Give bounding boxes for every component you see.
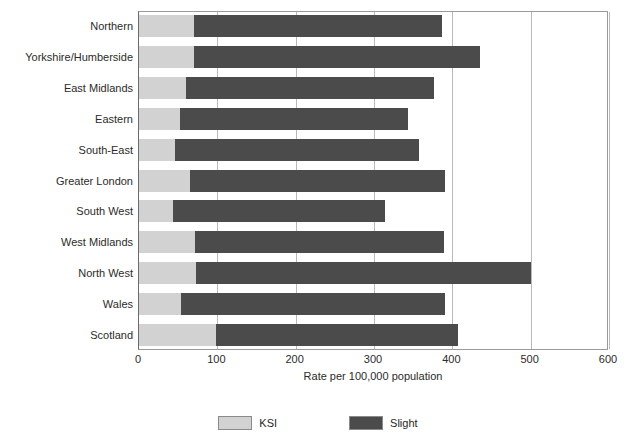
- category-label: Scotland: [0, 329, 133, 341]
- bar-segment-slight: [190, 170, 445, 192]
- legend-label-slight: Slight: [390, 417, 418, 429]
- legend-swatch-ksi-icon: [218, 416, 252, 430]
- gridline-600: [609, 12, 610, 349]
- category-axis-labels: NorthernYorkshire/HumbersideEast Midland…: [0, 11, 133, 350]
- bar-row: [139, 139, 609, 161]
- x-tick-label: 0: [118, 352, 158, 366]
- bar-row: [139, 324, 609, 346]
- x-tick-label: 500: [510, 352, 550, 366]
- bar-segment-slight: [195, 231, 444, 253]
- legend-label-ksi: KSI: [259, 417, 277, 429]
- bar-row: [139, 293, 609, 315]
- category-label: Yorkshire/Humberside: [0, 51, 133, 63]
- bar-segment-slight: [186, 77, 434, 99]
- bar-row: [139, 231, 609, 253]
- bar-segment-slight: [173, 200, 385, 222]
- bar-segment-ksi: [139, 231, 195, 253]
- bar-segment-ksi: [139, 324, 216, 346]
- bars-layer: [139, 11, 608, 350]
- x-tick-label: 300: [353, 352, 393, 366]
- bar-row: [139, 77, 609, 99]
- legend-item-ksi: KSI: [218, 416, 277, 430]
- bar-segment-slight: [194, 15, 442, 37]
- category-label: West Midlands: [0, 236, 133, 248]
- bar-segment-ksi: [139, 293, 181, 315]
- bar-row: [139, 46, 609, 68]
- category-label: East Midlands: [0, 82, 133, 94]
- bar-segment-slight: [194, 46, 480, 68]
- bar-segment-slight: [175, 139, 419, 161]
- bar-segment-ksi: [139, 46, 194, 68]
- legend-swatch-slight-icon: [349, 416, 383, 430]
- x-tick-label: 100: [196, 352, 236, 366]
- category-label: South West: [0, 205, 133, 217]
- bar-segment-slight: [180, 108, 409, 130]
- bar-segment-ksi: [139, 262, 196, 284]
- bar-segment-ksi: [139, 170, 190, 192]
- bar-row: [139, 262, 609, 284]
- bar-row: [139, 108, 609, 130]
- stacked-bar-chart: NorthernYorkshire/HumbersideEast Midland…: [0, 0, 636, 443]
- category-label: Northern: [0, 20, 133, 32]
- category-label: Eastern: [0, 113, 133, 125]
- x-axis-tick-labels: 0100200300400500600: [0, 352, 636, 368]
- category-label: Wales: [0, 298, 133, 310]
- x-tick-label: 400: [431, 352, 471, 366]
- bar-segment-ksi: [139, 77, 186, 99]
- x-axis-title: Rate per 100,000 population: [138, 370, 608, 382]
- category-label: North West: [0, 267, 133, 279]
- bar-row: [139, 200, 609, 222]
- category-label: Greater London: [0, 175, 133, 187]
- bar-row: [139, 170, 609, 192]
- chart-legend: KSI Slight: [0, 412, 636, 434]
- chart-title: [0, 0, 636, 3]
- bar-segment-slight: [196, 262, 530, 284]
- bar-segment-ksi: [139, 139, 175, 161]
- category-label: South-East: [0, 144, 133, 156]
- bar-segment-ksi: [139, 108, 180, 130]
- x-tick-label: 600: [588, 352, 628, 366]
- legend-item-slight: Slight: [349, 416, 418, 430]
- x-tick-label: 200: [275, 352, 315, 366]
- bar-row: [139, 15, 609, 37]
- bar-segment-ksi: [139, 15, 194, 37]
- bar-segment-slight: [216, 324, 458, 346]
- bar-segment-slight: [181, 293, 445, 315]
- bar-segment-ksi: [139, 200, 173, 222]
